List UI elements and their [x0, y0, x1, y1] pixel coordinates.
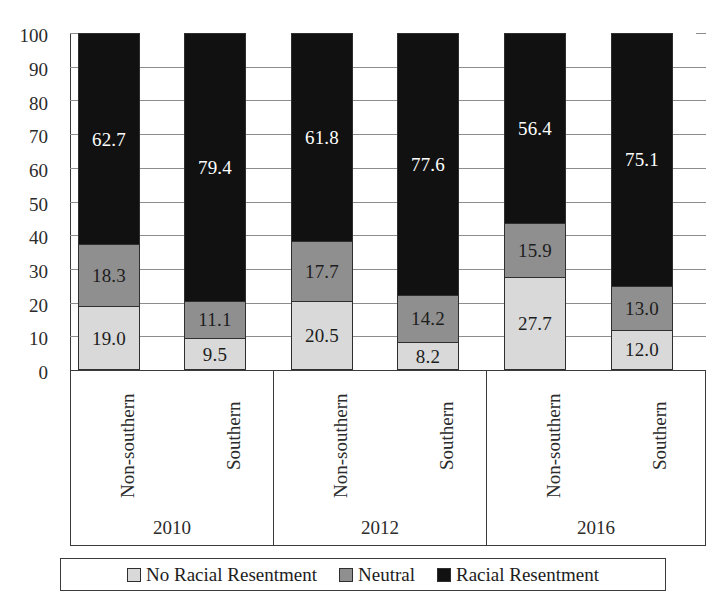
- segment-value: 9.5: [203, 345, 227, 364]
- legend-label: No Racial Resentment: [146, 565, 317, 584]
- segment-racial-resentment: 75.1: [611, 33, 673, 286]
- segment-value: 12.0: [625, 340, 659, 359]
- bar-2012-southern[interactable]: 77.6 14.2 8.2: [397, 33, 459, 370]
- segment-no-racial-resentment: 27.7: [504, 277, 566, 370]
- segment-value: 13.0: [625, 299, 659, 318]
- x-label-2016-southern: Southern: [649, 401, 671, 470]
- y-tick-50: 50: [4, 195, 48, 214]
- y-tick-30: 30: [4, 262, 48, 281]
- segment-racial-resentment: 56.4: [504, 33, 566, 223]
- y-tick-10: 10: [4, 329, 48, 348]
- y-tick-70: 70: [4, 127, 48, 146]
- y-tick-0: 0: [4, 363, 48, 382]
- legend-item-no-racial-resentment[interactable]: No Racial Resentment: [127, 565, 317, 584]
- x-axis-label-box: Non-southern Southern Non-southern South…: [70, 370, 706, 546]
- segment-value: 15.9: [518, 241, 552, 260]
- y-tick-20: 20: [4, 296, 48, 315]
- bar-2016-non-southern[interactable]: 56.4 15.9 27.7: [504, 33, 566, 370]
- segment-value: 17.7: [305, 262, 339, 281]
- segment-value: 79.4: [198, 158, 232, 177]
- group-label-2010: 2010: [71, 517, 273, 539]
- segment-racial-resentment: 77.6: [397, 33, 459, 295]
- legend-item-neutral[interactable]: Neutral: [339, 565, 415, 584]
- segment-no-racial-resentment: 8.2: [397, 342, 459, 370]
- segment-value: 61.8: [305, 128, 339, 147]
- y-tick-90: 90: [4, 60, 48, 79]
- segment-value: 27.7: [518, 314, 552, 333]
- segment-value: 11.1: [198, 310, 231, 329]
- segment-neutral: 15.9: [504, 223, 566, 277]
- segment-neutral: 18.3: [78, 244, 140, 306]
- segment-value: 56.4: [518, 119, 552, 138]
- segment-no-racial-resentment: 19.0: [78, 306, 140, 370]
- legend-swatch-light-gray-icon: [127, 568, 141, 582]
- plot-area: 62.7 18.3 19.0 79.4 11.1 9.5 61.8 17.7 2…: [70, 33, 706, 370]
- x-label-2016-non-southern: Non-southern: [543, 394, 565, 498]
- bar-2012-non-southern[interactable]: 61.8 17.7 20.5: [291, 33, 353, 370]
- segment-value: 19.0: [92, 329, 126, 348]
- group-label-2012: 2012: [274, 517, 486, 539]
- segment-value: 62.7: [92, 130, 126, 149]
- x-label-2012-non-southern: Non-southern: [330, 394, 352, 498]
- stacked-bar-chart: 100 90 80 70 60 50 40 30 20 10 0 62.7 18…: [0, 0, 726, 611]
- segment-no-racial-resentment: 20.5: [291, 301, 353, 370]
- segment-no-racial-resentment: 12.0: [611, 330, 673, 370]
- bar-2016-southern[interactable]: 75.1 13.0 12.0: [611, 33, 673, 370]
- x-label-2010-southern: Southern: [223, 401, 245, 470]
- segment-racial-resentment: 62.7: [78, 33, 140, 244]
- bar-2010-non-southern[interactable]: 62.7 18.3 19.0: [78, 33, 140, 370]
- y-tick-80: 80: [4, 94, 48, 113]
- legend-swatch-black-icon: [437, 568, 451, 582]
- y-axis: 100 90 80 70 60 50 40 30 20 10 0: [0, 0, 48, 380]
- legend-label: Neutral: [358, 565, 415, 584]
- segment-neutral: 11.1: [184, 301, 246, 338]
- segment-value: 14.2: [411, 309, 445, 328]
- bar-2010-southern[interactable]: 79.4 11.1 9.5: [184, 33, 246, 370]
- segment-value: 18.3: [92, 266, 126, 285]
- legend-label: Racial Resentment: [456, 565, 599, 584]
- legend-swatch-medium-gray-icon: [339, 568, 353, 582]
- x-label-2010-non-southern: Non-southern: [117, 394, 139, 498]
- segment-value: 75.1: [625, 150, 659, 169]
- segment-neutral: 17.7: [291, 241, 353, 301]
- y-tick-100: 100: [4, 26, 48, 45]
- segment-value: 20.5: [305, 326, 339, 345]
- segment-value: 8.2: [416, 347, 440, 366]
- legend: No Racial Resentment Neutral Racial Rese…: [60, 558, 666, 591]
- segment-racial-resentment: 79.4: [184, 33, 246, 301]
- segment-no-racial-resentment: 9.5: [184, 338, 246, 370]
- segment-neutral: 13.0: [611, 286, 673, 330]
- segment-value: 77.6: [411, 155, 445, 174]
- y-tick-40: 40: [4, 228, 48, 247]
- x-label-2012-southern: Southern: [436, 401, 458, 470]
- y-tick-60: 60: [4, 161, 48, 180]
- segment-racial-resentment: 61.8: [291, 33, 353, 241]
- group-label-2016: 2016: [487, 517, 705, 539]
- legend-item-racial-resentment[interactable]: Racial Resentment: [437, 565, 599, 584]
- segment-neutral: 14.2: [397, 295, 459, 343]
